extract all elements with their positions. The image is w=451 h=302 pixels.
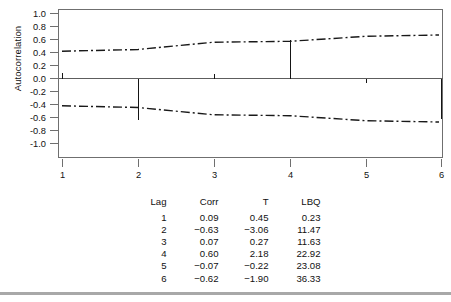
x-axis: 1 2 3 4 5 6	[60, 159, 444, 181]
cell-lbq: 23.08	[269, 260, 321, 272]
x-tick-label: 1	[60, 170, 65, 180]
acf-plot-svg: 1.0 0.8 0.6 0.4 0.2 0.0 -0.2 -0.4 -0.6 -…	[0, 0, 451, 190]
cell-lbq: 22.92	[269, 248, 321, 260]
y-tick-label: 0.8	[33, 22, 46, 32]
cell-corr: 0.07	[167, 236, 219, 248]
cell-lag: 1	[131, 211, 167, 223]
y-tick-label: 0.6	[33, 35, 46, 45]
table-row: 6 −0.62 −1.90 36.33	[131, 272, 321, 284]
y-tick-label: -0.4	[30, 100, 46, 110]
cell-lbq: 11.63	[269, 236, 321, 248]
cell-lag: 5	[131, 260, 167, 272]
x-tick-marks	[63, 159, 442, 167]
table-body: 1 0.09 0.45 0.23 2 −0.63 −3.06 11.47 3 0…	[131, 211, 321, 284]
x-tick-label: 6	[439, 170, 444, 180]
lower-confidence-band	[62, 106, 439, 122]
cell-lag: 4	[131, 248, 167, 260]
table-row: 5 −0.07 −0.22 23.08	[131, 260, 321, 272]
table-header-row: Lag Corr T LBQ	[131, 196, 321, 211]
table-row: 2 −0.63 −3.06 11.47	[131, 223, 321, 235]
cell-t: 0.27	[219, 236, 269, 248]
cell-lbq: 11.47	[269, 223, 321, 235]
cell-t: 0.45	[219, 211, 269, 223]
column-header-lag: Lag	[131, 196, 167, 211]
column-header-corr: Corr	[167, 196, 219, 211]
cell-lag: 3	[131, 236, 167, 248]
y-axis: 1.0 0.8 0.6 0.4 0.2 0.0 -0.2 -0.4 -0.6 -…	[30, 9, 58, 149]
x-tick-label: 2	[136, 170, 141, 180]
acf-statistics-table: Lag Corr T LBQ 1 0.09 0.45 0.23 2 −0.63 …	[0, 196, 451, 284]
bottom-divider	[0, 292, 451, 295]
cell-corr: 0.60	[167, 248, 219, 260]
cell-lag: 6	[131, 272, 167, 284]
column-header-t: T	[219, 196, 269, 211]
plot-frame	[59, 10, 443, 158]
cell-lbq: 36.33	[269, 272, 321, 284]
cell-lbq: 0.23	[269, 211, 321, 223]
y-tick-label: -1.0	[30, 139, 46, 149]
x-tick-label: 4	[288, 170, 293, 180]
cell-t: 2.18	[219, 248, 269, 260]
y-tick-label: -0.6	[30, 113, 46, 123]
table-row: 1 0.09 0.45 0.23	[131, 211, 321, 223]
y-tick-label: 1.0	[33, 9, 46, 19]
acf-table: Lag Corr T LBQ 1 0.09 0.45 0.23 2 −0.63 …	[131, 196, 321, 284]
y-tick-label: 0.4	[33, 48, 46, 58]
y-tick-label: -0.2	[30, 87, 46, 97]
y-tick-marks	[50, 14, 58, 144]
x-tick-label: 3	[212, 170, 217, 180]
cell-t: −3.06	[219, 223, 269, 235]
y-tick-label: -0.8	[30, 126, 46, 136]
y-tick-label: 0.2	[33, 61, 46, 71]
cell-lag: 2	[131, 223, 167, 235]
column-header-lbq: LBQ	[269, 196, 321, 211]
upper-confidence-band	[62, 35, 439, 51]
cell-corr: 0.09	[167, 211, 219, 223]
cell-corr: −0.07	[167, 260, 219, 272]
y-tick-label: 0.0	[33, 74, 46, 84]
x-tick-label: 5	[364, 170, 369, 180]
table-header: Lag Corr T LBQ	[131, 196, 321, 211]
cell-t: −0.22	[219, 260, 269, 272]
table-row: 3 0.07 0.27 11.63	[131, 236, 321, 248]
cell-t: −1.90	[219, 272, 269, 284]
table-row: 4 0.60 2.18 22.92	[131, 248, 321, 260]
acf-chart: Autocorrelation 1.0 0.8 0.6 0.4 0.2	[0, 0, 451, 190]
cell-corr: −0.63	[167, 223, 219, 235]
cell-corr: −0.62	[167, 272, 219, 284]
